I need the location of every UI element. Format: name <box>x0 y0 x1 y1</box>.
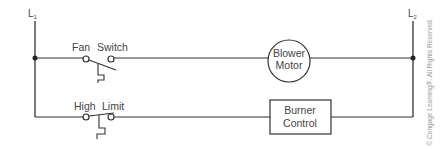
high-limit-contact-left <box>83 114 89 120</box>
left-rail-label: L1 <box>28 8 38 20</box>
burner-control-label-2: Control <box>283 117 317 129</box>
high-limit-contact-right <box>108 114 114 120</box>
fan-switch-contact-left <box>83 56 89 62</box>
fan-switch-contact-right <box>108 56 114 62</box>
fan-switch-actuator-icon <box>98 64 104 83</box>
fan-switch-label-1: Fan <box>72 41 90 53</box>
high-limit-actuator-icon <box>97 115 105 139</box>
burner-control-label-1: Burner <box>284 104 316 116</box>
rung-fan <box>35 40 413 83</box>
left-rail <box>33 21 38 117</box>
fan-switch-label-2: Switch <box>97 41 128 53</box>
right-rail <box>411 21 416 117</box>
high-limit-label-2: Limit <box>102 100 124 112</box>
ladder-diagram: L1 L2 Fan Switch Blower Motor High Limit… <box>0 0 446 149</box>
high-limit-label-1: High <box>74 100 96 112</box>
blower-motor-label-1: Blower <box>273 47 306 59</box>
right-rail-label: L2 <box>408 8 418 20</box>
copyright-notice: © Cengage Learning®. All Rights Reserved… <box>426 18 434 145</box>
blower-motor-label-2: Motor <box>276 59 303 71</box>
